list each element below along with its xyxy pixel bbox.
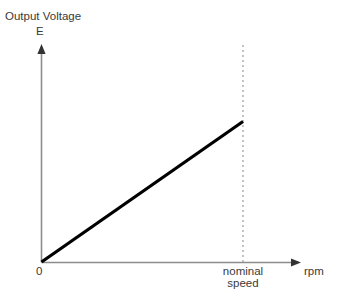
y-axis-label: E: [36, 25, 44, 37]
chart-title: Output Voltage: [5, 10, 81, 22]
y-axis-arrowhead-icon: [37, 44, 45, 54]
nominal-speed-label-line1: nominal: [223, 265, 263, 277]
x-axis-label: rpm: [304, 265, 324, 277]
chart-canvas: [0, 0, 339, 303]
x-axis-tick-label-nominal-speed: nominal speed: [223, 265, 263, 289]
x-axis-tick-label-origin: 0: [36, 265, 42, 277]
chart-figure: Output Voltage E 0 nominal speed rpm: [0, 0, 339, 303]
nominal-speed-label-line2: speed: [223, 277, 263, 289]
data-series-line: [42, 122, 244, 263]
x-axis-arrowhead-icon: [291, 258, 301, 266]
